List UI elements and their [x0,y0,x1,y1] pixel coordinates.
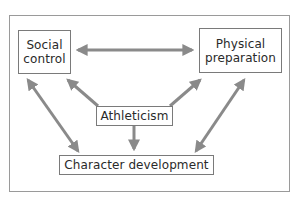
node-physical-preparation: Physical preparation [199,28,282,73]
arrow-athleticism-social [68,80,98,106]
arrow-social-character [28,80,78,151]
node-character-development: Character development [59,155,214,175]
node-athleticism: Athleticism [96,106,173,126]
arrow-athleticism-physical [170,80,200,106]
arrow-physical-character [196,80,244,151]
node-social-control: Social control [18,30,71,74]
